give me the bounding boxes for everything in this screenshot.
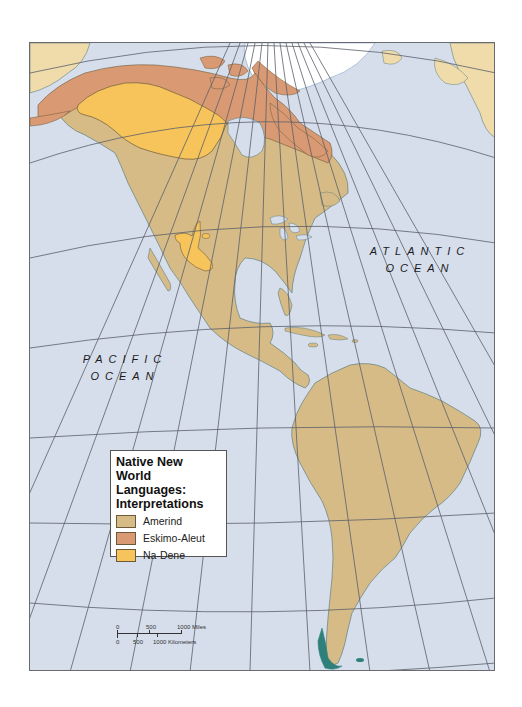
atlantic-ocean-label: ATLANTIC OCEAN	[360, 243, 480, 277]
legend-item-amerind: Amerind	[116, 514, 221, 528]
legend-item-na-dene: Na-Dene	[116, 548, 221, 562]
eskimo-aleut-swatch	[116, 532, 136, 545]
south-america-amerind	[292, 364, 481, 665]
florida	[278, 288, 292, 316]
europe-landmass	[450, 43, 495, 138]
amerind-swatch	[116, 515, 136, 528]
pacific-label-line1: PACIFIC	[70, 351, 180, 368]
scale-tick	[149, 630, 150, 634]
atlantic-label-line1: ATLANTIC	[360, 243, 480, 260]
map-legend: Native New World Languages: Interpretati…	[110, 450, 227, 557]
legend-title-line1: Native New World	[116, 455, 221, 483]
falkland-islands	[356, 658, 364, 662]
legend-title-line3: Interpretations	[116, 497, 221, 511]
pacific-ocean-label: PACIFIC OCEAN	[70, 351, 180, 385]
legend-label: Amerind	[143, 515, 182, 527]
scale-bar: 0 500 1000 Miles 0 500 1000 Kilometers	[113, 622, 243, 652]
scale-km-500: 500	[133, 639, 143, 645]
scale-tick	[137, 633, 138, 637]
legend-label: Na-Dene	[143, 549, 185, 561]
scale-tick	[117, 630, 118, 638]
pacific-label-line2: OCEAN	[70, 368, 180, 385]
legend-item-eskimo-aleut: Eskimo-Aleut	[116, 531, 221, 545]
atlantic-label-line2: OCEAN	[360, 260, 480, 277]
legend-title-line2: Languages:	[116, 483, 221, 497]
scale-km-0: 0	[116, 639, 119, 645]
scale-km-1000: 1000 Kilometers	[153, 639, 196, 645]
na-dene-southwest-outlier	[202, 234, 210, 239]
iceland	[382, 50, 402, 64]
scale-miles-500: 500	[146, 624, 156, 630]
legend-title: Native New World Languages: Interpretati…	[116, 455, 221, 511]
scale-tick	[157, 633, 158, 637]
map-frame: ATLANTIC OCEAN PACIFIC OCEAN	[29, 42, 495, 671]
scale-tick	[181, 630, 182, 634]
legend-label: Eskimo-Aleut	[143, 532, 205, 544]
na-dene-swatch	[116, 549, 136, 562]
